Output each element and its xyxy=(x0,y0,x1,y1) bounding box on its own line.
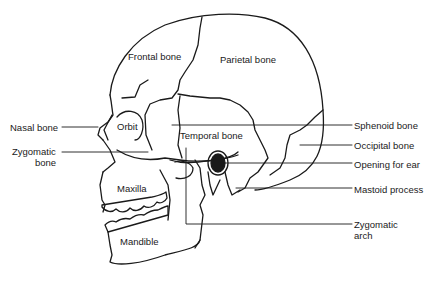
label-maxilla: Maxilla xyxy=(117,183,147,194)
label-zygomatic-arch-2: arch xyxy=(354,230,372,241)
label-sphenoid-bone: Sphenoid bone xyxy=(354,120,418,131)
frontal-crease xyxy=(122,80,148,98)
label-nasal-bone: Nasal bone xyxy=(10,122,58,133)
label-mandible: Mandible xyxy=(120,236,159,247)
sphenoid-suture xyxy=(178,96,182,158)
label-zygomatic-bone-1: Zygomatic xyxy=(12,146,56,157)
mastoid-process xyxy=(225,172,240,195)
squamous-suture xyxy=(178,94,268,192)
upper-teeth xyxy=(102,192,167,212)
lambdoid-suture xyxy=(270,110,323,175)
label-frontal-bone: Frontal bone xyxy=(128,51,181,62)
mandible-ramus xyxy=(195,160,205,248)
ear-opening xyxy=(211,154,225,172)
label-zygomatic-arch-1: Zygomatic xyxy=(354,219,398,230)
label-temporal-bone: Temporal bone xyxy=(180,130,243,141)
label-opening-for-ear: Opening for ear xyxy=(354,159,420,170)
condyle xyxy=(175,161,193,178)
label-orbit: Orbit xyxy=(117,121,138,132)
zygomatic-contour xyxy=(103,140,115,172)
label-parietal-bone: Parietal bone xyxy=(220,54,276,65)
label-occipital-bone: Occipital bone xyxy=(354,140,414,151)
label-zygomatic-bone-2: bone xyxy=(35,157,56,168)
label-mastoid-process: Mastoid process xyxy=(354,184,423,195)
